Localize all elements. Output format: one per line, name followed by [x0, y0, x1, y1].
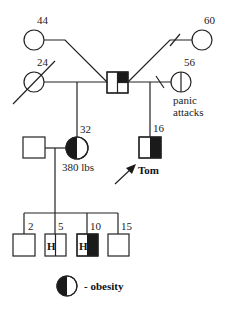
proband-arrow-icon	[115, 164, 136, 184]
marker-h-10: H	[79, 240, 88, 252]
pedigree-diagram: 44 24 60 56 panic attacks	[0, 0, 229, 314]
legend-text: - obesity	[84, 280, 124, 292]
central-male-quartered	[107, 72, 128, 93]
age-label-24: 24	[37, 56, 49, 68]
pedigree-svg: 44 24 60 56 panic attacks	[0, 0, 229, 314]
age-label-60: 60	[204, 14, 216, 26]
age-label-16: 16	[153, 122, 165, 134]
male-spouse	[23, 137, 45, 158]
note-attacks: attacks	[173, 106, 204, 118]
age-label-5: 5	[58, 220, 64, 232]
female-44: 44	[24, 14, 49, 50]
age-label-32: 32	[80, 123, 91, 135]
filled-quadrant	[118, 72, 128, 82]
age-label-15: 15	[121, 220, 133, 232]
female-24-deceased: 24	[13, 56, 55, 104]
female-60: 60	[192, 14, 216, 50]
proband-name: Tom	[138, 164, 159, 176]
note-panic: panic	[173, 94, 197, 106]
marker-h-5: H	[47, 240, 56, 252]
age-label-2: 2	[28, 220, 34, 232]
age-label-44: 44	[37, 14, 49, 26]
proband-tom: 16 Tom	[138, 122, 165, 176]
female-32-obese: 32 380 lbs	[62, 123, 94, 173]
legend: - obesity	[57, 276, 124, 296]
filled-half	[66, 137, 77, 159]
note-weight: 380 lbs	[62, 161, 94, 173]
age-label-56: 56	[184, 56, 196, 68]
mating-line-44	[44, 40, 107, 82]
age-label-10: 10	[90, 220, 102, 232]
female-56: 56 panic attacks	[171, 56, 204, 118]
child-age-15: 15	[108, 220, 133, 256]
child-age-10: H 10	[77, 220, 102, 256]
